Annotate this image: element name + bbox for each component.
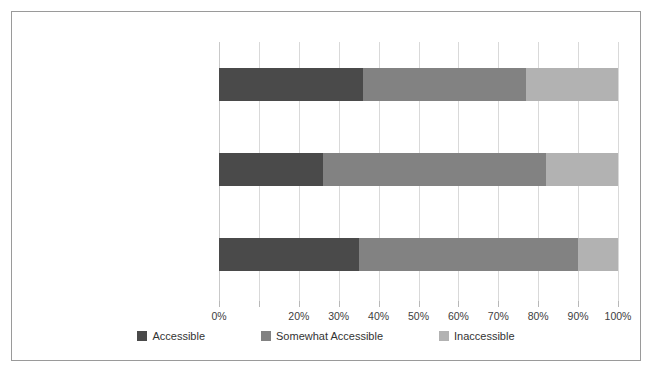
chart-frame: 0%20%30%40%50%60%70%80%90%100% Mobility …	[11, 11, 641, 361]
x-tick-label: 0%	[211, 310, 226, 322]
bar-segment	[219, 68, 363, 101]
legend-label: Inaccessible	[454, 330, 515, 342]
legend-label: Accessible	[152, 330, 205, 342]
stacked-bar-row	[219, 68, 618, 101]
tick-mark-70	[498, 301, 499, 307]
x-tick-label: 60%	[448, 310, 469, 322]
legend-swatch-icon	[137, 331, 147, 341]
legend-swatch-icon	[261, 331, 271, 341]
bar-segment	[578, 238, 618, 271]
x-tick-label: 30%	[328, 310, 349, 322]
stacked-bar-row	[219, 153, 618, 186]
x-tick-label: 100%	[605, 310, 632, 322]
chart-title	[0, 0, 654, 3]
bar-segment	[546, 153, 618, 186]
bar-segment	[219, 153, 323, 186]
legend-swatch-icon	[439, 331, 449, 341]
gridline-100	[618, 42, 619, 301]
tick-mark-60	[458, 301, 459, 307]
x-tick-label: 40%	[368, 310, 389, 322]
x-tick-label: 20%	[288, 310, 309, 322]
bar-segment	[219, 238, 359, 271]
legend-item[interactable]: Somewhat Accessible	[261, 330, 383, 342]
tick-mark-20	[299, 301, 300, 307]
chart-legend: AccessibleSomewhat AccessibleInaccessibl…	[11, 330, 641, 342]
legend-item[interactable]: Inaccessible	[439, 330, 515, 342]
x-tick-label: 90%	[568, 310, 589, 322]
x-tick-label: 70%	[488, 310, 509, 322]
tick-mark-10	[259, 301, 260, 307]
tick-mark-0	[219, 301, 220, 307]
tick-mark-50	[419, 301, 420, 307]
stacked-bar-row	[219, 238, 618, 271]
bar-segment	[359, 238, 578, 271]
legend-item[interactable]: Accessible	[137, 330, 205, 342]
tick-mark-80	[538, 301, 539, 307]
bar-segment	[323, 153, 546, 186]
plot-area: 0%20%30%40%50%60%70%80%90%100% Mobility …	[219, 42, 618, 301]
tick-mark-100	[618, 301, 619, 307]
x-tick-label: 80%	[528, 310, 549, 322]
tick-mark-40	[379, 301, 380, 307]
x-tick-label: 50%	[408, 310, 429, 322]
tick-mark-90	[578, 301, 579, 307]
bar-segment	[526, 68, 618, 101]
legend-label: Somewhat Accessible	[276, 330, 383, 342]
bar-segment	[363, 68, 527, 101]
tick-mark-30	[339, 301, 340, 307]
